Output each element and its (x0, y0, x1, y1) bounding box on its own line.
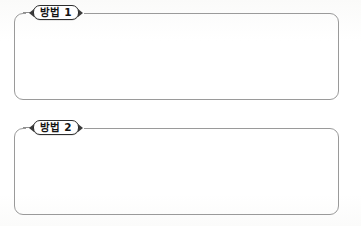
method-badge-2[interactable]: 방법 2 (29, 119, 83, 136)
answer-area-2[interactable] (24, 142, 329, 207)
method-badge-1[interactable]: 방법 1 (29, 4, 83, 21)
method-badge-pill-1: 방법 1 (33, 5, 79, 20)
method-badge-label-2: 방법 2 (40, 122, 72, 133)
method-block-2: 방법 2 (14, 128, 339, 215)
method-badge-label-1: 방법 1 (40, 7, 72, 18)
answer-area-1[interactable] (24, 27, 329, 92)
method-badge-pill-2: 방법 2 (33, 120, 79, 135)
method-block-1: 방법 1 (14, 13, 339, 100)
worksheet-page: 방법 1 방법 2 (0, 0, 361, 226)
